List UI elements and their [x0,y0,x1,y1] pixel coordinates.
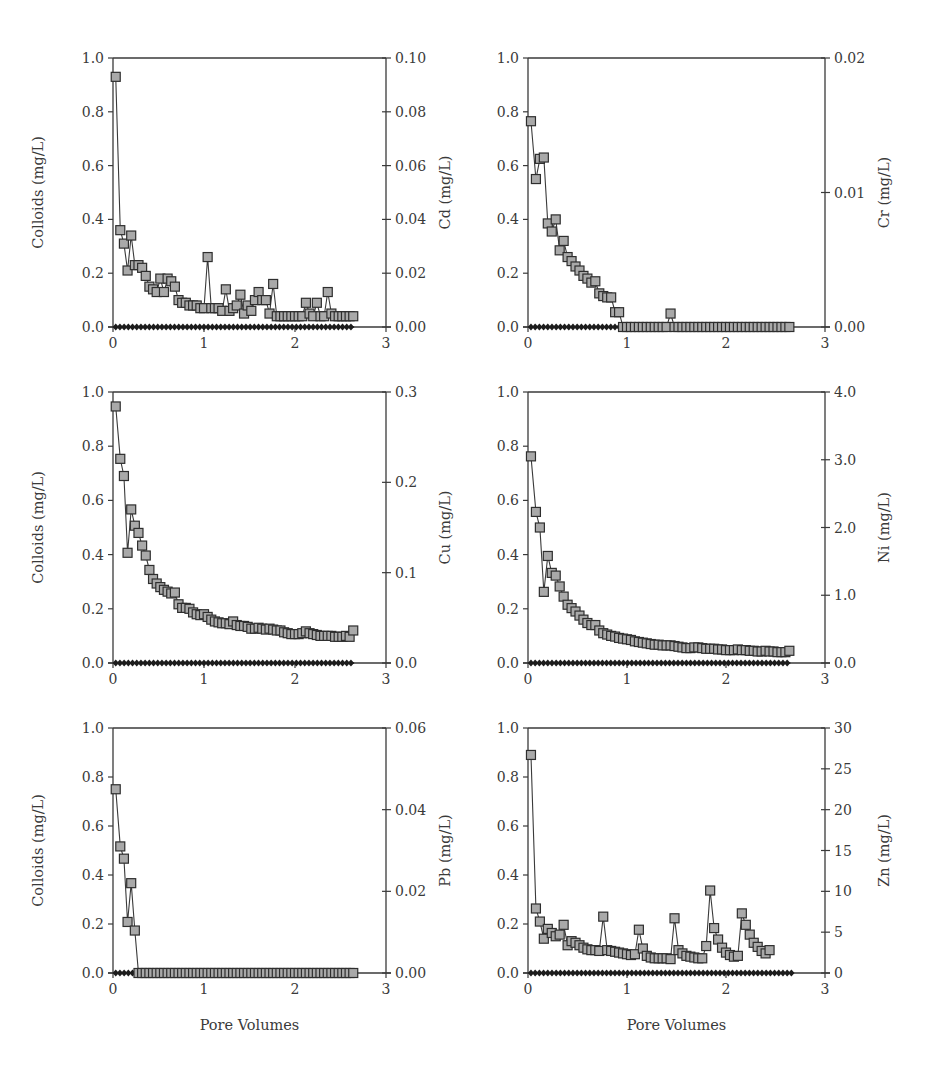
right-y-tick-label: 0.02 [395,265,426,281]
left-y-tick-label: 0.6 [497,818,519,834]
x-tick-label: 3 [821,335,830,351]
left-y-tick-label: 0.8 [497,769,519,785]
data-point-marker [236,290,245,299]
x-tick-label: 0 [524,981,533,997]
data-point-marker [591,277,600,286]
chart-panel-middle-right: 0.00.20.40.60.81.00.01.02.03.04.00123Ni … [497,384,892,687]
data-point-marker [670,914,679,923]
left-y-tick-label: 0.6 [497,158,519,174]
data-point-marker [526,452,535,461]
data-point-marker [666,955,675,964]
right-y-tick-label: 0.00 [834,319,865,335]
data-point-marker [559,236,568,245]
left-y-tick-label: 0.4 [497,211,519,227]
left-y-tick-label: 0.2 [497,265,519,281]
left-y-tick-label: 1.0 [82,384,104,400]
data-point-marker [526,750,535,759]
data-point-marker [599,912,608,921]
right-y-tick-label: 0.3 [395,384,417,400]
data-point-marker [539,153,548,162]
data-point-marker [134,528,143,537]
right-y-tick-label: 0.0 [834,655,856,671]
data-point-marker [551,215,560,224]
series-pb [111,785,358,978]
left-y-tick-label: 0.2 [82,916,104,932]
data-point-marker [543,551,552,560]
x-tick-label: 1 [623,335,632,351]
data-point-marker [111,402,120,411]
data-point-marker [127,879,136,888]
right-y-tick-label: 1.0 [834,587,856,603]
data-point-marker [710,924,719,933]
left-y-tick-label: 0.8 [82,438,104,454]
x-tick-label: 3 [382,981,391,997]
data-point-marker [170,588,179,597]
left-y-tick-label: 0.2 [497,601,519,617]
right-y-tick-label: 0.1 [395,565,417,581]
x-tick-label: 1 [200,335,209,351]
data-point-marker [526,117,535,126]
x-tick-label: 0 [109,335,118,351]
x-tick-label: 0 [524,671,533,687]
right-y-tick-label: 0.04 [395,211,426,227]
data-point-marker [607,293,616,302]
figure-canvas: 0.00.20.40.60.81.00.000.020.040.060.080.… [0,0,945,1067]
left-y-tick-label: 0.2 [82,265,104,281]
left-y-tick-label: 0.0 [82,965,104,981]
series-colloids [113,323,355,330]
right-y-tick-label: 0.04 [395,802,426,818]
data-point-marker [123,917,132,926]
data-point-marker [785,323,794,332]
right-y-tick-label: 0.06 [395,158,426,174]
series-zn [526,750,774,963]
right-y-tick-label: 4.0 [834,384,856,400]
right-axis-title: Pb (mg/L) [437,814,453,887]
right-y-tick-label: 15 [834,843,852,859]
chart-panel-top-right: 0.00.20.40.60.81.00.000.010.020123Cr (mg… [497,50,892,351]
left-axis-title: Colloids (mg/L) [30,471,46,584]
right-y-tick-label: 0.02 [834,50,865,66]
data-point-marker [141,551,150,560]
data-point-marker [741,920,750,929]
left-y-tick-label: 0.0 [497,965,519,981]
series-ni [526,452,793,657]
x-tick-label: 3 [382,671,391,687]
x-tick-label: 1 [200,671,209,687]
data-point-marker [539,587,548,596]
x-axis-title: Pore Volumes [200,1017,300,1033]
right-y-tick-label: 0.01 [834,185,865,201]
left-y-tick-label: 0.6 [82,818,104,834]
right-axis-title: Cu (mg/L) [437,491,453,565]
left-y-tick-label: 1.0 [497,384,519,400]
data-point-marker [123,548,132,557]
right-y-tick-label: 3.0 [834,452,856,468]
series-cu [111,402,358,641]
right-y-tick-label: 0.02 [395,883,426,899]
data-point-marker [737,909,746,918]
x-tick-label: 2 [722,981,731,997]
series-colloids [528,659,791,666]
data-point-marker [531,904,540,913]
data-point-marker [203,253,212,262]
left-y-tick-label: 0.4 [82,867,104,883]
left-y-tick-label: 0.6 [497,492,519,508]
chart-panel-middle-left: 0.00.20.40.60.81.00.00.10.20.30123Colloi… [30,384,453,687]
x-tick-label: 2 [722,671,731,687]
left-y-tick-label: 0.4 [82,211,104,227]
left-y-tick-label: 0.8 [82,104,104,120]
right-y-tick-label: 30 [834,720,852,736]
x-tick-label: 1 [623,671,632,687]
x-tick-label: 0 [109,671,118,687]
data-point-marker [634,925,643,934]
data-point-marker [555,582,564,591]
left-y-tick-label: 1.0 [82,720,104,736]
x-tick-label: 2 [722,335,731,351]
data-point-marker [785,646,794,655]
data-point-marker [111,72,120,81]
right-y-tick-label: 0.06 [395,720,426,736]
left-y-tick-label: 0.0 [82,319,104,335]
data-point-marker [555,930,564,939]
series-cd [111,72,358,320]
chart-panel-top-left: 0.00.20.40.60.81.00.000.020.040.060.080.… [30,50,453,351]
data-point-marker [221,285,230,294]
